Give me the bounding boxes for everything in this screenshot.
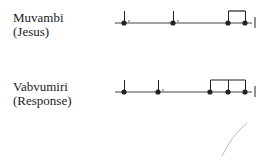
augmentation-dot <box>162 89 163 90</box>
rhythm-notation-diagram <box>0 0 273 161</box>
stray-pencil-mark <box>222 123 247 156</box>
augmentation-dot <box>128 20 129 21</box>
augmentation-dot <box>177 20 178 21</box>
